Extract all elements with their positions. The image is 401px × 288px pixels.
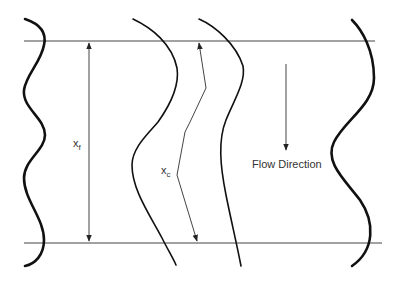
center-left-curve [132, 19, 177, 265]
right-wavy-front-curve [331, 20, 374, 266]
flow-front-diagram: xf xc Flow Direction [0, 0, 401, 288]
center-spacing-arrow [177, 43, 206, 241]
center-spacing-label: xc [161, 164, 171, 179]
center-spacing-label-sub: c [167, 170, 171, 179]
left-wavy-front-curve [24, 19, 45, 266]
flow-direction-label: Flow Direction [252, 158, 322, 170]
front-spacing-label: xf [73, 137, 82, 152]
front-spacing-label-sub: f [79, 143, 82, 152]
center-right-curve [199, 19, 243, 266]
